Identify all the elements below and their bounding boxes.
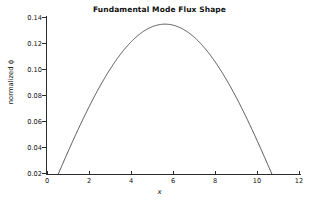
y-tick-label: 0.12 [16, 40, 42, 48]
flux-curve-path [58, 24, 271, 174]
x-tick-label: 4 [122, 177, 140, 185]
y-tick-label: 0.04 [16, 144, 42, 152]
x-tick-label: 0 [38, 177, 56, 185]
chart-title: Fundamental Mode Flux Shape [0, 5, 319, 14]
x-tick-label: 2 [80, 177, 98, 185]
x-tick-label: 6 [164, 177, 182, 185]
x-axis-spine [46, 174, 301, 175]
x-tick-label: 10 [248, 177, 266, 185]
flux-curve [47, 16, 300, 174]
y-tick-label: 0.08 [16, 92, 42, 100]
plot-area [47, 16, 300, 174]
y-tick-label: 0.06 [16, 118, 42, 126]
x-axis-label: x [0, 188, 319, 196]
chart-figure: Fundamental Mode Flux Shape 0.14 0.12 0.… [0, 0, 319, 208]
x-tick-label: 8 [206, 177, 224, 185]
y-axis-label: normalized ϕ [7, 40, 15, 124]
y-tick-label: 0.10 [16, 66, 42, 74]
x-tick-label: 12 [290, 177, 308, 185]
y-tick-label: 0.14 [16, 14, 42, 22]
